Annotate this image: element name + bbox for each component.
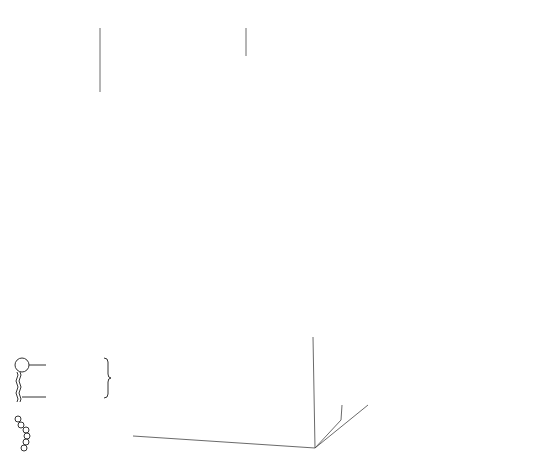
legend-icons	[15, 358, 111, 451]
leader-lines	[100, 28, 368, 448]
cell-membrane-diagram	[0, 0, 560, 471]
